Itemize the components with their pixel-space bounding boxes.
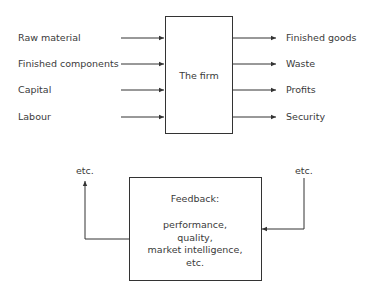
input-finished-components: Finished components (18, 58, 119, 69)
feedback-item-performance: performance, (129, 219, 261, 232)
output-waste: Waste (286, 58, 315, 69)
input-labour: Labour (18, 111, 51, 122)
feedback-item-quality: quality, (129, 232, 261, 245)
feedback-title: Feedback: (129, 193, 261, 206)
feedback-item-market-intelligence: market intelligence, (129, 244, 261, 257)
feedback-item-etc: etc. (129, 257, 261, 270)
firm-label: The firm (179, 70, 219, 81)
feedback-left-label: etc. (76, 165, 94, 176)
feedback-right-label: etc. (295, 165, 313, 176)
input-raw-material: Raw material (18, 32, 81, 43)
output-profits: Profits (286, 84, 316, 95)
input-capital: Capital (18, 84, 51, 95)
output-security: Security (286, 111, 325, 122)
output-finished-goods: Finished goods (286, 32, 357, 43)
firm-box: The firm (165, 16, 233, 134)
